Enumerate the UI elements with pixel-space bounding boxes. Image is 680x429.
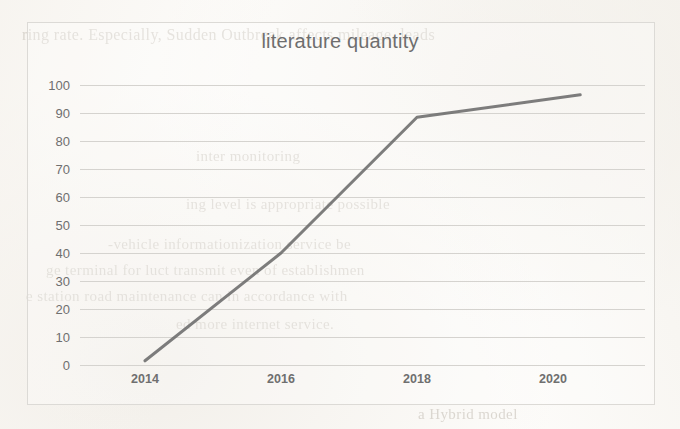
chart-frame [27, 22, 655, 405]
x-axis-tick-label: 2018 [387, 372, 447, 386]
y-axis-tick-label: 40 [36, 246, 70, 261]
y-axis-tick-label: 60 [36, 190, 70, 205]
y-axis-tick-label: 30 [36, 274, 70, 289]
chart-title: literature quantity [0, 30, 680, 53]
y-axis-tick-label: 20 [36, 302, 70, 317]
y-axis-tick-label: 90 [36, 106, 70, 121]
y-axis-tick-label: 70 [36, 162, 70, 177]
y-axis-tick-label: 50 [36, 218, 70, 233]
x-axis-tick-label: 2020 [523, 372, 583, 386]
y-axis-tick-label: 10 [36, 330, 70, 345]
y-axis-tick-label: 80 [36, 134, 70, 149]
x-axis-tick-label: 2014 [115, 372, 175, 386]
y-axis-tick-label: 0 [36, 358, 70, 373]
y-axis-tick-label: 100 [36, 78, 70, 93]
x-axis-tick-label: 2016 [251, 372, 311, 386]
